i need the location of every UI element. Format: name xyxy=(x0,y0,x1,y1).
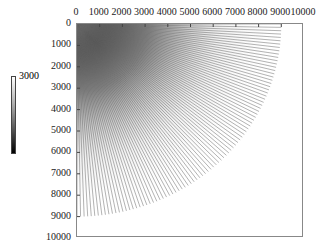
y-tick-label: 8000 xyxy=(31,189,71,199)
x-tick-label: 10000 xyxy=(291,7,316,17)
y-tick-label: 7000 xyxy=(31,168,71,178)
x-tick-label: 4000 xyxy=(157,7,177,17)
x-tick-label: 3000 xyxy=(134,7,154,17)
plot-area xyxy=(76,23,303,237)
y-tick-label: 6000 xyxy=(31,146,71,156)
x-tick-label: 5000 xyxy=(180,7,200,17)
y-tick-label: 4000 xyxy=(31,104,71,114)
x-tick-label: 0 xyxy=(74,7,79,17)
colorbar-max-label: 3000 xyxy=(19,70,39,81)
x-tick-label: 8000 xyxy=(248,7,268,17)
y-tick-label: 10000 xyxy=(31,232,71,242)
y-tick-label: 5000 xyxy=(31,125,71,135)
x-tick-label: 9000 xyxy=(270,7,290,17)
x-tick-label: 1000 xyxy=(89,7,109,17)
y-tick-label: 9000 xyxy=(31,211,71,221)
x-tick-label: 2000 xyxy=(111,7,131,17)
colorbar xyxy=(11,76,16,154)
y-tick-label: 1000 xyxy=(31,39,71,49)
x-tick-label: 6000 xyxy=(202,7,222,17)
y-tick-label: 0 xyxy=(31,18,71,28)
y-tick-label: 3000 xyxy=(31,82,71,92)
x-tick-label: 7000 xyxy=(225,7,245,17)
radial-lines xyxy=(77,24,303,237)
